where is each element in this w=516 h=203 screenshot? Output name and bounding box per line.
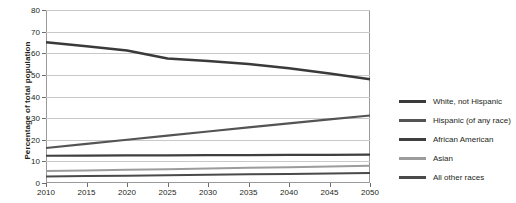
plot-area — [46, 10, 370, 183]
legend-item[interactable]: Asian — [399, 149, 516, 168]
series-line — [46, 166, 370, 171]
series-line — [46, 42, 370, 79]
y-axis-tick-label: 10 — [0, 157, 40, 166]
x-axis-tick-label: 2015 — [67, 188, 107, 197]
series-line — [46, 116, 370, 148]
legend-swatch-icon — [399, 100, 426, 103]
y-axis-tick-label: 80 — [0, 6, 40, 15]
legend-item-label: African American — [433, 135, 493, 145]
x-axis-tick-label: 2040 — [269, 188, 309, 197]
x-axis-tick-label: 2020 — [107, 188, 147, 197]
y-axis-tick-label: 0 — [0, 179, 40, 188]
series-line — [46, 173, 370, 176]
legend-item[interactable]: African American — [399, 130, 516, 149]
legend-swatch-icon — [399, 157, 426, 160]
y-axis-tick-label: 60 — [0, 49, 40, 58]
legend-swatch-icon — [399, 176, 426, 179]
series-line — [46, 155, 370, 156]
x-axis-tick-mark — [249, 183, 250, 187]
legend-item-label: White, not Hispanic — [433, 97, 502, 107]
x-axis-tick-mark — [208, 183, 209, 187]
chart-legend: White, not HispanicHispanic (of any race… — [399, 92, 516, 187]
legend-item[interactable]: All other races — [399, 168, 516, 187]
series-lines — [46, 10, 370, 183]
x-axis-tick-label: 2010 — [26, 188, 66, 197]
x-axis-tick-mark — [330, 183, 331, 187]
x-axis-tick-label: 2025 — [148, 188, 188, 197]
x-axis-tick-mark — [87, 183, 88, 187]
x-axis-tick-mark — [289, 183, 290, 187]
legend-swatch-icon — [399, 119, 426, 122]
y-axis-tick-label: 30 — [0, 114, 40, 123]
chart-container: Percentage of total population 010203040… — [0, 0, 516, 203]
y-axis-tick-label: 40 — [0, 92, 40, 101]
legend-item[interactable]: White, not Hispanic — [399, 92, 516, 111]
y-axis-tick-label: 70 — [0, 27, 40, 36]
legend-swatch-icon — [399, 138, 426, 141]
x-axis-tick-label: 2035 — [229, 188, 269, 197]
legend-item-label: Hispanic (of any race) — [433, 116, 511, 126]
y-axis-tick-label: 50 — [0, 70, 40, 79]
legend-item-label: Asian — [433, 154, 453, 164]
x-axis-tick-label: 2030 — [188, 188, 228, 197]
x-axis-tick-mark — [46, 183, 47, 187]
y-axis-tick-label: 20 — [0, 135, 40, 144]
x-axis-tick-label: 2050 — [350, 188, 390, 197]
legend-item-label: All other races — [433, 173, 484, 183]
x-axis-tick-mark — [370, 183, 371, 187]
x-axis-tick-mark — [127, 183, 128, 187]
legend-item[interactable]: Hispanic (of any race) — [399, 111, 516, 130]
x-axis-tick-label: 2045 — [310, 188, 350, 197]
x-axis-tick-mark — [168, 183, 169, 187]
